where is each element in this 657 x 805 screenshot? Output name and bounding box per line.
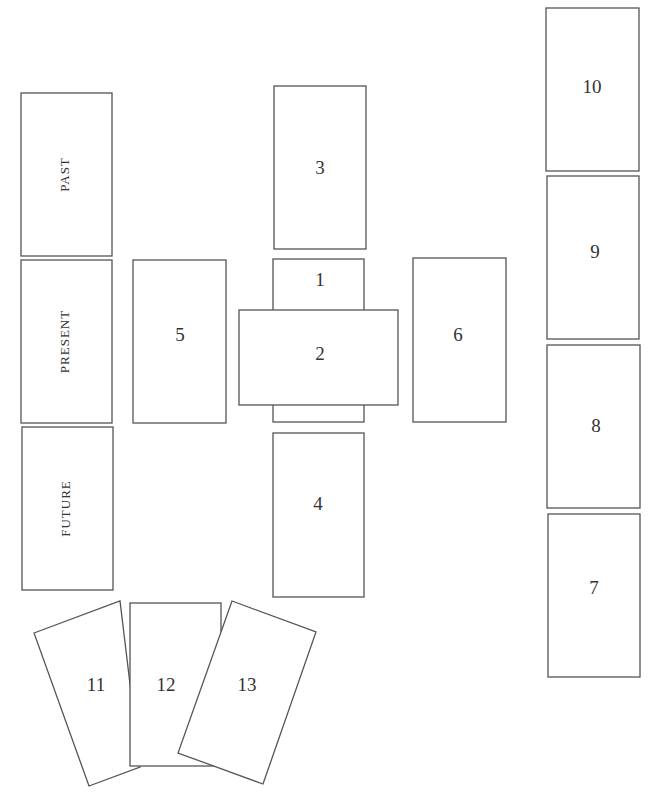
card-12-label: 12 xyxy=(157,674,176,695)
card-4: 4 xyxy=(273,433,364,597)
card-5: 5 xyxy=(133,260,226,423)
card-present: PRESENT xyxy=(21,260,112,423)
card-2: 2 xyxy=(239,310,398,405)
card-10: 10 xyxy=(546,8,639,171)
card-4-label: 4 xyxy=(313,493,323,514)
card-8-label: 8 xyxy=(591,415,601,436)
card-past-label: PAST xyxy=(57,157,72,192)
card-future: FUTURE xyxy=(22,427,113,590)
card-1-label: 1 xyxy=(315,269,325,290)
card-11: 11 xyxy=(34,601,140,786)
card-11-label: 11 xyxy=(87,674,105,695)
card-present-label: PRESENT xyxy=(57,310,72,373)
card-2-label: 2 xyxy=(315,343,325,364)
card-past: PAST xyxy=(21,93,112,256)
card-6-label: 6 xyxy=(453,324,463,345)
tarot-spread-diagram: PAST PRESENT FUTURE 3 5 1 2 6 4 10 9 xyxy=(0,0,657,805)
card-8: 8 xyxy=(547,345,640,508)
card-7: 7 xyxy=(548,514,640,677)
card-future-label: FUTURE xyxy=(58,480,73,537)
card-3: 3 xyxy=(274,86,366,249)
card-9-label: 9 xyxy=(590,241,600,262)
card-3-label: 3 xyxy=(315,157,325,178)
card-6: 6 xyxy=(413,258,506,422)
card-7-label: 7 xyxy=(589,577,599,598)
card-13-label: 13 xyxy=(238,674,257,695)
card-10-label: 10 xyxy=(583,76,602,97)
card-5-label: 5 xyxy=(175,324,185,345)
card-9: 9 xyxy=(547,176,639,339)
